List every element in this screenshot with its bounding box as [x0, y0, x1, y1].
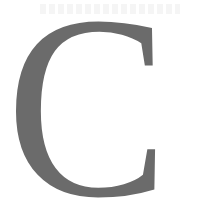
drop-cap-letter: C: [6, 0, 169, 213]
drop-cap-container: C: [0, 0, 198, 213]
